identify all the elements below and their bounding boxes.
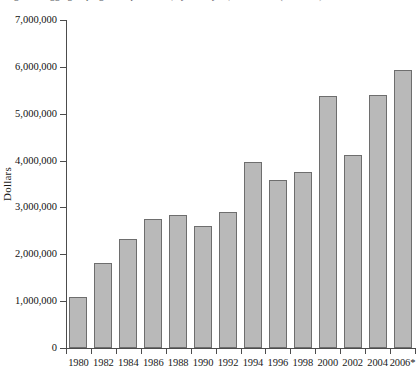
bar	[369, 95, 387, 348]
y-axis-tick-label-text: 7,000,000	[1, 15, 57, 25]
x-axis-tick	[91, 348, 92, 354]
bar	[169, 215, 187, 348]
y-axis-tick-label: 6,000,000	[0, 62, 57, 72]
x-axis-tick-label: 2006*	[383, 357, 417, 369]
y-axis-tick-label-text: 6,000,000	[1, 62, 57, 72]
x-axis-tick	[340, 348, 341, 354]
y-axis-tick-label-text: 5,000,000	[1, 109, 57, 119]
y-axis-tick	[60, 161, 66, 162]
bar	[394, 70, 412, 348]
y-axis-tick-label: 4,000,000	[0, 156, 57, 166]
y-axis-tick	[60, 114, 66, 115]
y-axis-tick	[60, 20, 66, 21]
y-axis-tick-label-text: 3,000,000	[1, 202, 57, 212]
y-axis-tick	[60, 207, 66, 208]
x-axis-tick	[241, 348, 242, 354]
bar	[269, 180, 287, 348]
x-axis-tick	[415, 348, 416, 354]
x-axis-tick	[365, 348, 366, 354]
y-axis-tick-label: 2,000,000	[0, 249, 57, 259]
x-axis-tick	[166, 348, 167, 354]
x-axis-tick	[116, 348, 117, 354]
x-axis-tick	[290, 348, 291, 354]
y-axis-tick	[60, 301, 66, 302]
bar	[94, 263, 112, 348]
y-axis-tick	[60, 67, 66, 68]
bar	[219, 212, 237, 348]
x-axis-tick	[315, 348, 316, 354]
bar	[319, 96, 337, 348]
bar	[344, 155, 362, 348]
y-axis-tick-label: 3,000,000	[0, 202, 57, 212]
bar	[244, 162, 262, 348]
x-axis-tick	[216, 348, 217, 354]
x-axis-tick	[191, 348, 192, 354]
x-axis-tick	[141, 348, 142, 354]
y-axis-line	[66, 20, 67, 349]
x-axis-tick	[265, 348, 266, 354]
y-axis-tick-label: 7,000,000	[0, 15, 57, 25]
bar	[119, 239, 137, 348]
bar	[294, 172, 312, 348]
bar	[69, 297, 87, 348]
x-axis-tick	[66, 348, 67, 354]
y-axis-tick-label: 5,000,000	[0, 109, 57, 119]
figure-caption: Figure 1. Aggregate program expenditures…	[6, 0, 411, 5]
y-axis-tick-label: 0	[0, 343, 57, 353]
bar	[194, 226, 212, 348]
y-axis-tick-label-text: 4,000,000	[1, 156, 57, 166]
bar	[144, 219, 162, 348]
y-axis-tick-label-text: 2,000,000	[1, 249, 57, 259]
bar-chart-figure: Figure 1. Aggregate program expenditures…	[0, 0, 417, 374]
y-axis-tick	[60, 254, 66, 255]
y-axis-tick-label: 1,000,000	[0, 296, 57, 306]
y-axis-tick-label-text: 1,000,000	[1, 296, 57, 306]
y-axis-tick-label-text: 0	[1, 343, 57, 353]
x-axis-tick	[390, 348, 391, 354]
